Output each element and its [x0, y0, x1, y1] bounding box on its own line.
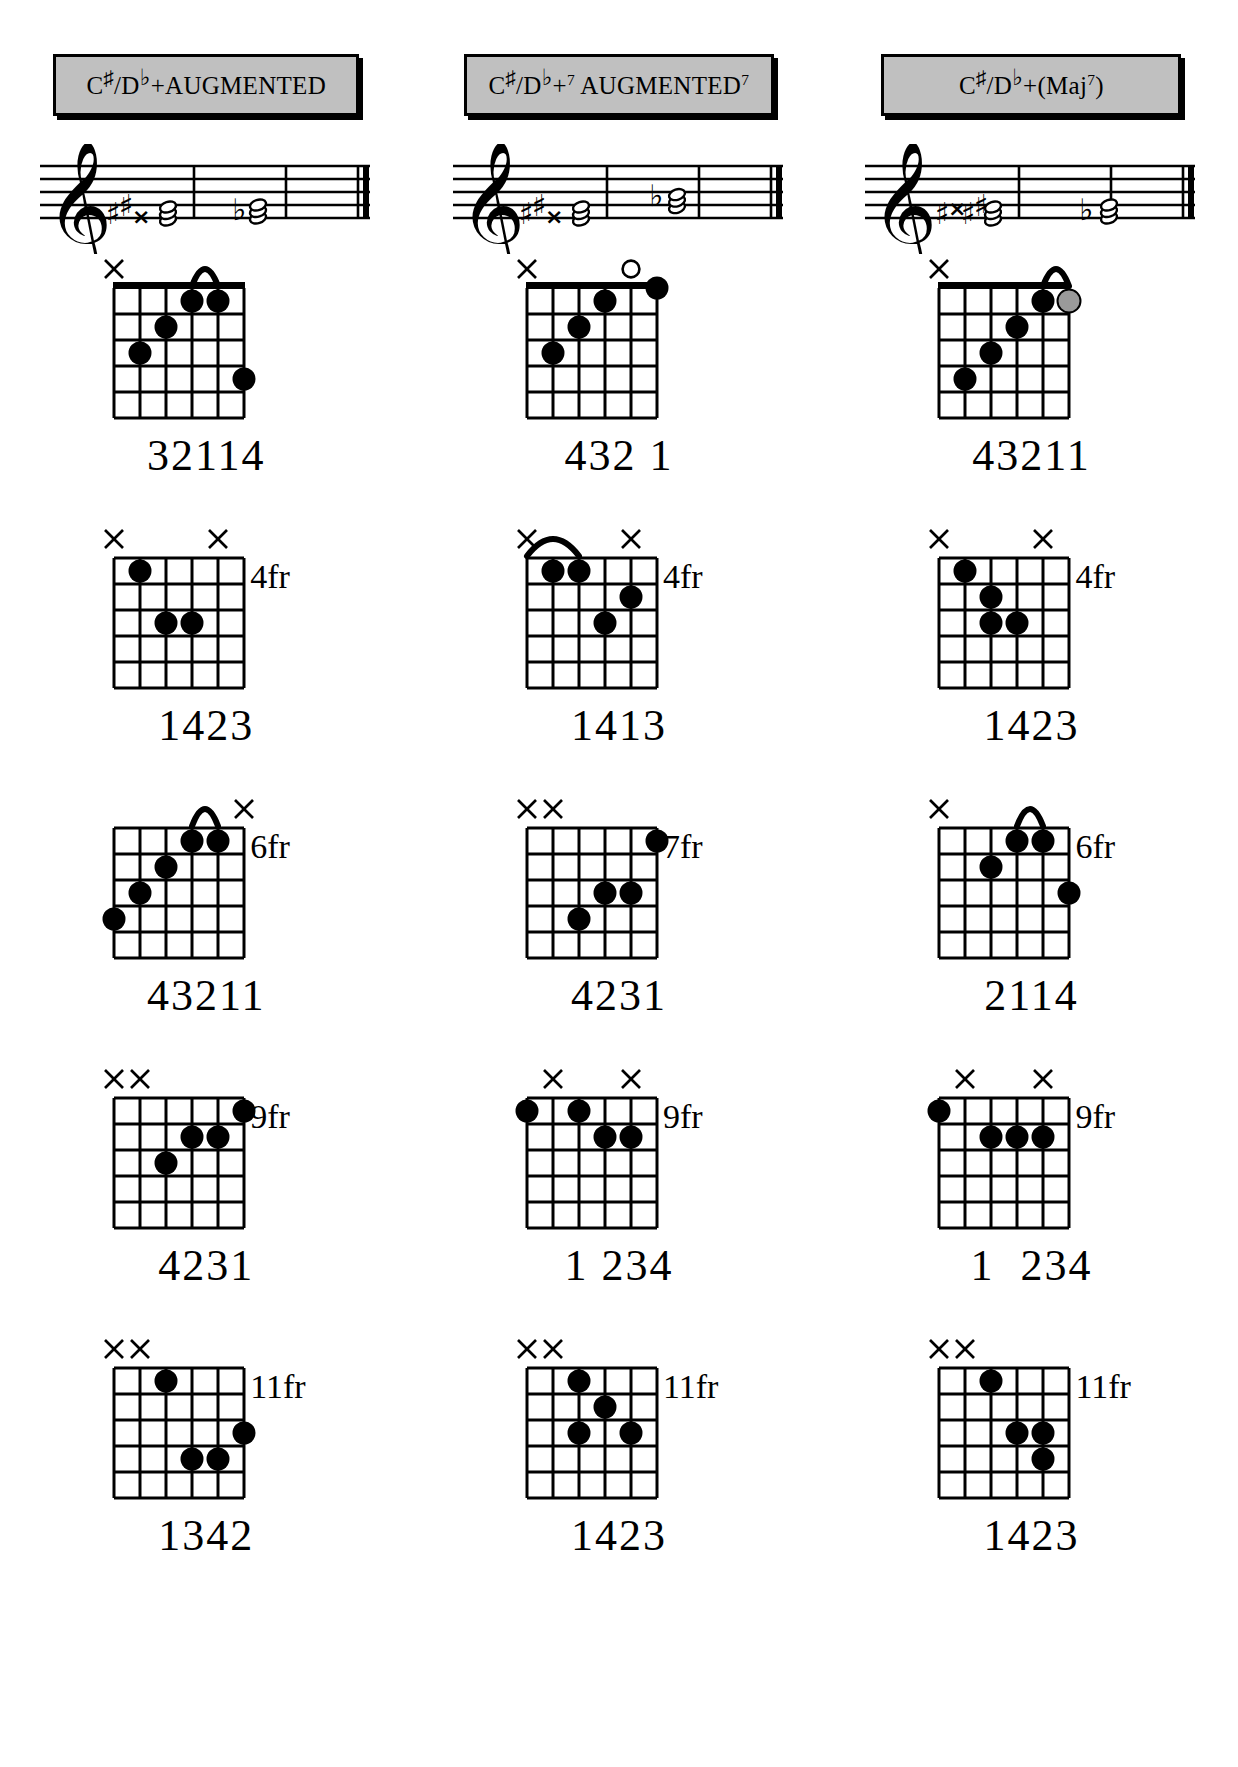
chord-voicing[interactable]: 7fr4231 — [469, 794, 769, 1018]
finger-dot — [619, 882, 642, 905]
chord-diagram[interactable] — [881, 254, 1181, 424]
chord-voicing[interactable]: 4fr1423 — [881, 524, 1181, 748]
chord-voicing[interactable]: 11fr1423 — [469, 1334, 769, 1558]
finger-dot — [980, 1126, 1003, 1149]
chord-voicing[interactable]: 32114 — [56, 254, 356, 478]
finger-dot — [129, 560, 152, 583]
diagram-area: 9fr — [56, 1064, 356, 1234]
chord-diagram[interactable] — [469, 524, 769, 694]
chord-voicing[interactable]: 9fr4231 — [56, 1064, 356, 1288]
fret-position-label: 4fr — [1075, 560, 1115, 594]
diagram-area: 6fr — [56, 794, 356, 964]
fingering-numbers: 1413 — [571, 704, 667, 748]
fingering-numbers: 43211 — [147, 974, 265, 1018]
finger-dot — [207, 290, 230, 313]
chord-diagram[interactable] — [881, 794, 1181, 964]
chord-diagram[interactable] — [56, 1334, 356, 1504]
fret-position-label: 6fr — [250, 830, 290, 864]
chord-voicing[interactable]: 432 1 — [469, 254, 769, 478]
diagram-area: 11fr — [56, 1334, 356, 1504]
finger-dot — [1006, 1422, 1029, 1445]
accidental-flat: ♭ — [232, 192, 246, 227]
fret-position-label: 7fr — [663, 830, 703, 864]
chord-diagram[interactable] — [56, 524, 356, 694]
chord-diagram[interactable] — [469, 794, 769, 964]
chord-diagram[interactable] — [56, 794, 356, 964]
fingering-numbers: 2114 — [984, 974, 1078, 1018]
chord-diagram[interactable] — [881, 524, 1181, 694]
chord-voicing[interactable]: 11fr1423 — [881, 1334, 1181, 1558]
chord-diagram[interactable] — [881, 1334, 1181, 1504]
fingering-numbers: 43211 — [972, 434, 1090, 478]
finger-dot — [619, 586, 642, 609]
finger-dot — [567, 560, 590, 583]
finger-dot — [593, 612, 616, 635]
finger-dot — [541, 342, 564, 365]
finger-dot — [954, 368, 977, 391]
fingering-numbers: 1423 — [571, 1514, 667, 1558]
chord-diagram[interactable] — [56, 254, 356, 424]
finger-dot — [567, 1422, 590, 1445]
finger-dot — [567, 1370, 590, 1393]
chord-voicing[interactable]: 6fr43211 — [56, 794, 356, 1018]
barre-arc — [527, 539, 579, 556]
finger-dot — [1006, 316, 1029, 339]
chord-diagram[interactable] — [469, 1334, 769, 1504]
chord-voicing[interactable]: 4fr1423 — [56, 524, 356, 748]
barre-arc — [1017, 809, 1043, 826]
fret-position-label: 11fr — [1075, 1370, 1130, 1404]
finger-dot — [181, 612, 204, 635]
finger-dot — [1032, 1126, 1055, 1149]
finger-dot — [233, 1422, 256, 1445]
chord-header-col-augmented-7: C♯/D♭+7 AUGMENTED7 — [464, 54, 774, 116]
chord-voicing[interactable]: 11fr1342 — [56, 1334, 356, 1558]
chord-voicing[interactable]: 43211 — [881, 254, 1181, 478]
chord-voicing[interactable]: 9fr1 234 — [469, 1064, 769, 1288]
nut — [113, 282, 245, 289]
fingering-numbers: 4231 — [158, 1244, 254, 1288]
treble-clef-icon: 𝄞 — [459, 144, 525, 254]
chord-diagram[interactable] — [469, 1064, 769, 1234]
chord-column-col-augmented-maj7: C♯/D♭+(Maj7)𝄞♯×♯♯♭432114fr14236fr21149fr… — [825, 54, 1238, 1558]
finger-dot — [207, 1126, 230, 1149]
chord-voicing[interactable]: 4fr1413 — [469, 524, 769, 748]
diagram-area: 4fr — [56, 524, 356, 694]
chord-diagram[interactable] — [881, 1064, 1181, 1234]
fingering-numbers: 432 1 — [564, 434, 673, 478]
finger-dot — [181, 1126, 204, 1149]
fret-position-label: 4fr — [250, 560, 290, 594]
finger-dot — [1032, 1448, 1055, 1471]
accidental-flat: ♭ — [649, 178, 663, 213]
finger-dot — [1032, 1422, 1055, 1445]
finger-dot — [155, 612, 178, 635]
optional-finger-dot — [1058, 290, 1081, 313]
fret-position-label: 11fr — [250, 1370, 305, 1404]
finger-dot — [1006, 1126, 1029, 1149]
music-staff: 𝄞♯×♯♯♭ — [861, 144, 1201, 254]
chord-header-title: C♯/D♭+7 AUGMENTED7 — [488, 73, 749, 98]
chord-diagram[interactable] — [56, 1064, 356, 1234]
nut — [526, 282, 658, 289]
finger-dot — [1058, 882, 1081, 905]
finger-dot — [155, 1152, 178, 1175]
fingering-numbers: 1 234 — [564, 1244, 673, 1288]
chord-voicing[interactable]: 6fr2114 — [881, 794, 1181, 1018]
finger-dot — [928, 1100, 951, 1123]
finger-dot — [567, 1100, 590, 1123]
accidental-double-sharp: × — [132, 204, 150, 229]
finger-dot — [233, 368, 256, 391]
finger-dot — [1032, 290, 1055, 313]
finger-dot — [980, 1370, 1003, 1393]
finger-dot — [207, 1448, 230, 1471]
chord-diagram[interactable] — [469, 254, 769, 424]
chord-header-col-augmented-maj7: C♯/D♭+(Maj7) — [881, 54, 1181, 116]
finger-dot — [593, 290, 616, 313]
finger-dot — [980, 612, 1003, 635]
diagram-area — [56, 254, 356, 424]
finger-dot — [567, 908, 590, 931]
fret-position-label: 6fr — [1075, 830, 1115, 864]
music-staff: 𝄞♯♯×♭ — [36, 144, 376, 254]
chord-voicing[interactable]: 9fr1 234 — [881, 1064, 1181, 1288]
finger-dot — [980, 856, 1003, 879]
chord-column-col-augmented-7: C♯/D♭+7 AUGMENTED7𝄞♯♯×♭432 14fr14137fr42… — [413, 54, 826, 1558]
